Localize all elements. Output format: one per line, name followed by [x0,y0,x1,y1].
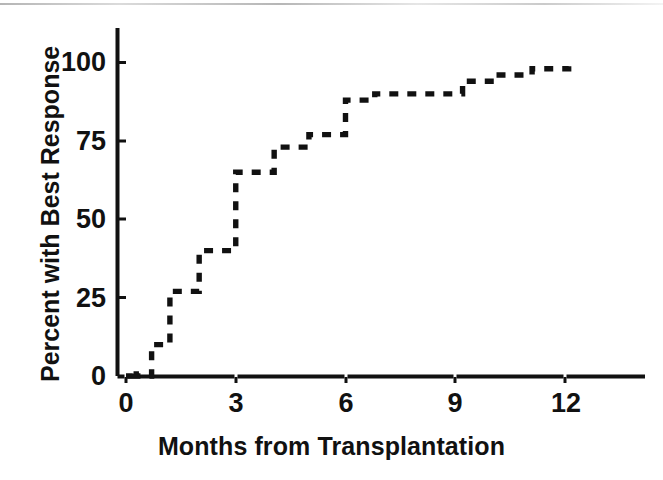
chart-figure: 100 75 50 25 0 0 3 6 9 12 Months from Tr… [0,0,663,480]
x-tick-label-12: 12 [551,390,581,417]
best-response-step-curve [126,63,569,377]
y-axis-title: Percent with Best Response [36,46,65,382]
x-tick-label-6: 6 [338,390,353,417]
x-axis-title: Months from Transplantation [0,432,663,461]
x-tick-label-9: 9 [447,390,462,417]
x-tick-label-0: 0 [118,390,133,417]
x-tick-label-3: 3 [228,390,243,417]
